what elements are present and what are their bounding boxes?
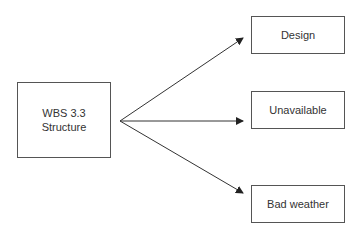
target-label: Bad weather bbox=[267, 197, 329, 211]
target-node-unavailable: Unavailable bbox=[251, 91, 345, 129]
target-node-bad-weather: Bad weather bbox=[251, 185, 345, 223]
target-label: Unavailable bbox=[269, 103, 326, 117]
source-node: WBS 3.3 Structure bbox=[17, 82, 111, 158]
target-label: Design bbox=[281, 28, 315, 42]
target-node-design: Design bbox=[251, 16, 345, 54]
source-line1: WBS 3.3 bbox=[42, 106, 87, 120]
source-line2: Structure bbox=[42, 120, 87, 134]
diagram-canvas: WBS 3.3 Structure Design Unavailable Bad… bbox=[0, 0, 363, 235]
arrow-to-bad-weather bbox=[120, 121, 243, 193]
arrow-to-design bbox=[120, 38, 243, 121]
